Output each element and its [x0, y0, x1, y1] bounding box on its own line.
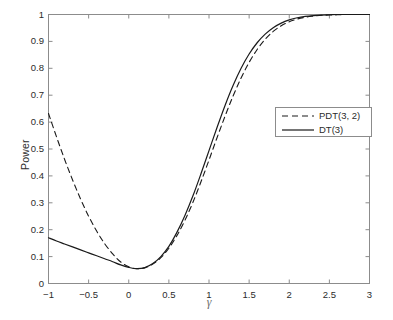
y-tick-label: 1 [18, 10, 44, 20]
legend-sample-dashed [281, 111, 315, 121]
y-tick-label: 0 [18, 279, 44, 289]
x-tick-label: 0.5 [162, 290, 175, 300]
y-tick-label: 0.9 [18, 37, 44, 47]
legend-label-pdt: PDT(3, 2) [319, 111, 360, 121]
y-tick-label: 0.4 [18, 171, 44, 181]
x-axis-label: γ [207, 295, 212, 310]
y-axis-label: Power [19, 139, 31, 170]
figure-canvas: 00.10.20.30.40.50.60.70.80.91 −1−0.500.5… [0, 0, 393, 320]
x-tick-label: 2 [287, 290, 292, 300]
y-tick-label: 0.7 [18, 90, 44, 100]
plot-svg [0, 0, 393, 320]
x-tick-label: −0.5 [79, 290, 98, 300]
x-tick-label: 3 [367, 290, 372, 300]
legend-label-dt: DT(3) [319, 125, 343, 135]
y-tick-label: 0.2 [18, 225, 44, 235]
x-tick-label: 1.5 [243, 290, 256, 300]
legend-entry-dt: DT(3) [276, 123, 371, 137]
legend: PDT(3, 2) DT(3) [275, 107, 372, 137]
y-tick-label: 0.3 [18, 198, 44, 208]
x-tick-label: 0 [126, 290, 131, 300]
y-tick-label: 0.6 [18, 117, 44, 127]
x-tick-label: −1 [43, 290, 54, 300]
y-tick-label: 0.8 [18, 64, 44, 74]
legend-entry-pdt: PDT(3, 2) [276, 109, 371, 123]
y-tick-label: 0.1 [18, 252, 44, 262]
x-tick-label: 2.5 [323, 290, 336, 300]
legend-sample-solid [281, 125, 315, 135]
